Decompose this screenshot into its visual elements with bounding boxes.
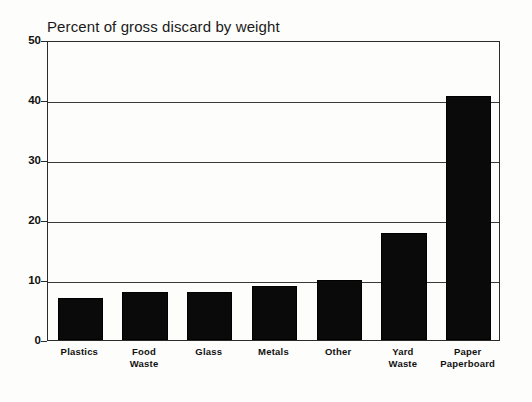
bar [317, 280, 362, 340]
x-tick-label-line: Waste [104, 358, 185, 370]
chart-figure: Percent of gross discard by weight 01020… [0, 0, 532, 402]
plot-area [47, 41, 500, 341]
x-tick-label-line: Paperboard [427, 358, 508, 370]
y-tick-mark [41, 341, 47, 342]
bar [446, 96, 491, 340]
y-tick-label: 20 [28, 215, 41, 227]
y-tick-mark [41, 221, 47, 222]
x-tick-label: PaperPaperboard [427, 346, 508, 370]
y-tick-mark [41, 161, 47, 162]
x-tick-label-line: Paper [427, 346, 508, 358]
bar [252, 286, 297, 340]
y-tick-label: 50 [28, 35, 41, 47]
y-tick-mark [41, 41, 47, 42]
bars-group [48, 42, 499, 340]
bar [122, 292, 167, 340]
bar [58, 298, 103, 340]
y-tick-label: 10 [28, 275, 41, 287]
bar [381, 233, 426, 340]
y-axis-labels: 01020304050 [10, 41, 41, 341]
y-tick-mark [41, 281, 47, 282]
chart-title: Percent of gross discard by weight [47, 18, 280, 35]
bar [187, 292, 232, 340]
y-tick-label: 30 [28, 155, 41, 167]
y-tick-label: 40 [28, 95, 41, 107]
y-tick-mark [41, 101, 47, 102]
